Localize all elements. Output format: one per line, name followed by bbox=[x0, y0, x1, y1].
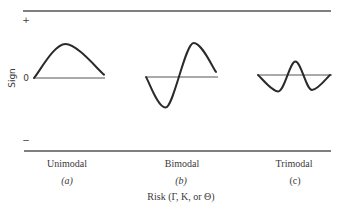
x-axis-label: Risk (Γ, K, or Θ) bbox=[147, 191, 214, 203]
panel-trimodal: Trimodal (c) bbox=[258, 62, 332, 188]
y-tick-plus: + bbox=[22, 15, 30, 25]
panel-label-trimodal: Trimodal bbox=[276, 158, 313, 169]
curve-unimodal bbox=[34, 44, 104, 78]
panel-tag-a: (a) bbox=[61, 175, 73, 187]
panel-unimodal: Unimodal (a) bbox=[34, 44, 105, 187]
y-tick-minus: − bbox=[22, 135, 30, 145]
panel-label-unimodal: Unimodal bbox=[47, 158, 87, 169]
panel-tag-c: (c) bbox=[289, 175, 300, 187]
risk-shape-diagram: + 0 − Sign Unimodal (a) Bimodal (b) Trim… bbox=[0, 0, 342, 213]
curve-trimodal bbox=[258, 62, 330, 92]
panel-label-bimodal: Bimodal bbox=[165, 158, 200, 169]
panel-bimodal: Bimodal (b) bbox=[146, 43, 218, 187]
panel-tag-b: (b) bbox=[175, 175, 187, 187]
curve-bimodal bbox=[146, 43, 216, 108]
y-axis-label: Sign bbox=[7, 68, 17, 88]
y-tick-zero: 0 bbox=[23, 73, 29, 83]
